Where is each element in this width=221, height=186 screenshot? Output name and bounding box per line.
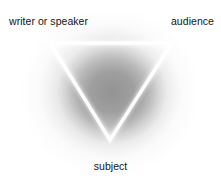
rhetorical-triangle-figure: writer or speaker audience subject xyxy=(0,0,221,186)
triangle-graphic xyxy=(0,0,221,186)
label-subject: subject xyxy=(0,160,221,172)
label-audience: audience xyxy=(171,15,214,27)
label-writer-or-speaker: writer or speaker xyxy=(9,15,88,27)
triangle-fill xyxy=(50,43,172,140)
